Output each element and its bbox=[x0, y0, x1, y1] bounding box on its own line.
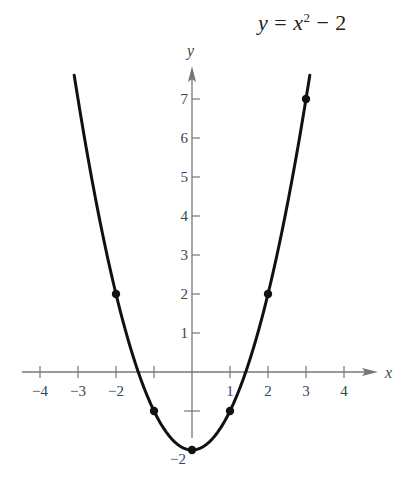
y-tick-label: 6 bbox=[181, 130, 189, 146]
data-points bbox=[112, 95, 310, 454]
x-tick-label: 3 bbox=[302, 383, 310, 399]
x-tick-label: −2 bbox=[108, 383, 124, 399]
data-point bbox=[112, 290, 120, 298]
x-tick-label: −4 bbox=[32, 383, 48, 399]
y-tick-label: 5 bbox=[181, 169, 189, 185]
data-point bbox=[150, 407, 158, 415]
y-tick-label: 7 bbox=[181, 91, 189, 107]
y-axis-label: y bbox=[185, 42, 195, 60]
x-tick-label: −3 bbox=[70, 383, 86, 399]
y-tick-label: −2 bbox=[170, 451, 186, 467]
x-axis-label: x bbox=[384, 364, 392, 381]
x-tick-label: 1 bbox=[226, 383, 234, 399]
parabola-plot: xy−4−3−212341234567−2 bbox=[0, 0, 418, 500]
data-point bbox=[226, 407, 234, 415]
data-point bbox=[188, 446, 196, 454]
data-point bbox=[264, 290, 272, 298]
y-tick-label: 1 bbox=[181, 325, 189, 341]
axes: xy−4−3−212341234567−2 bbox=[22, 42, 392, 467]
x-tick-label: 2 bbox=[264, 383, 272, 399]
x-tick-label: 4 bbox=[340, 383, 348, 399]
y-tick-label: 2 bbox=[181, 286, 189, 302]
y-tick-label: 4 bbox=[181, 208, 189, 224]
y-tick-label: 3 bbox=[181, 247, 189, 263]
data-point bbox=[302, 95, 310, 103]
